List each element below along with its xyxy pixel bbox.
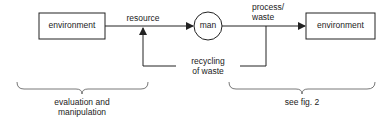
process-waste-label: process/ waste	[252, 3, 284, 22]
left-brace	[17, 82, 148, 94]
recycling-label: recycling of waste	[178, 57, 238, 76]
process-label-line2: waste	[252, 13, 284, 23]
environment-left-label: environment	[39, 21, 105, 31]
recycling-label-line2: of waste	[178, 67, 238, 77]
resource-label: resource	[120, 14, 166, 24]
man-label: man	[194, 21, 222, 31]
environment-right-label: environment	[306, 21, 375, 31]
recycling-line-right	[240, 26, 266, 66]
evaluation-label: evaluation and manipulation	[32, 98, 132, 117]
evaluation-label-line2: manipulation	[32, 108, 132, 118]
see-fig-label: see fig. 2	[262, 98, 342, 108]
right-brace	[229, 82, 375, 94]
